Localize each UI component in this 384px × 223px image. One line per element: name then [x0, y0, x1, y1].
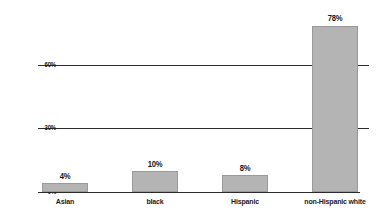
right-tick-60: [360, 65, 369, 66]
bar-value-hispanic: 8%: [225, 163, 264, 173]
bar-value-non-hispanic-white: 78%: [315, 13, 354, 23]
ytick-label-30: 30%: [22, 124, 56, 132]
bar-hispanic: [222, 175, 268, 192]
ytick-label-60: 60%: [22, 61, 56, 69]
category-label-hispanic: Hispanic: [214, 197, 276, 206]
category-label-asian: Asian: [34, 197, 96, 206]
bar-chart: 60% 30% 0% 4% 10% 8% 78% Asian black His…: [0, 0, 384, 223]
right-tick-30: [360, 128, 369, 129]
axis-baseline-0: [38, 192, 360, 193]
plot-area: 60% 30% 0% 4% 10% 8% 78% Asian black His…: [0, 0, 384, 223]
category-label-non-hispanic-white: non-Hispanic white: [295, 197, 374, 206]
bar-value-black: 10%: [135, 159, 174, 169]
bar-black: [132, 171, 178, 192]
bar-non-hispanic-white: [312, 26, 358, 192]
bar-value-asian: 4%: [45, 171, 84, 181]
bar-asian: [42, 183, 88, 192]
category-label-black: black: [124, 197, 186, 206]
